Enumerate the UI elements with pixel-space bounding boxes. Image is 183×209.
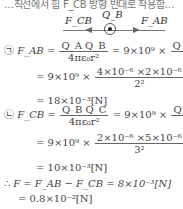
right-force-label: F_AB	[141, 15, 168, 26]
step-b-result: = 10×10⁻³[N]	[36, 162, 107, 173]
step-a-line2: = 9×10⁹ × 4×10⁻⁶ ×2×10⁻⁶2²	[36, 66, 183, 89]
conclusion-line1: ∴ F = F_AB − F_CB = 8×10⁻³[N]	[4, 178, 171, 189]
left-force-label: F_CB	[65, 15, 92, 26]
step-b-frac3: 2×10⁻⁶ ×5×10⁻⁶3²	[95, 132, 183, 155]
step-b-marker: ㉡	[4, 109, 14, 120]
step-a-lhs: F_AB =	[17, 45, 55, 56]
step-b-frac2: Q_B Q_Cr²	[171, 104, 183, 127]
arrow-right-icon	[133, 27, 140, 33]
step-a-frac2: Q_A Q_Br²	[171, 40, 183, 63]
charge-icon	[104, 23, 116, 35]
step-a-frac3: 4×10⁻⁶ ×2×10⁻⁶2²	[95, 66, 183, 89]
step-a-line1: ㉠ F_AB = Q_A Q_B4πε₀r² = 9×10⁹ × Q_A Q_B…	[4, 40, 183, 63]
conclusion-line2: = 0.8×10⁻²[N]	[18, 193, 92, 204]
step-b-line1: ㉡ F_CB = Q_B Q_C4πε₀r² = 9×10⁹ × Q_B Q_C…	[4, 104, 183, 127]
step-a-frac1: Q_A Q_B4πε₀r²	[59, 40, 107, 63]
step-a-mid: = 9×10⁹ ×	[112, 45, 167, 56]
step-a-marker: ㉠	[4, 45, 14, 56]
step-b-mid: = 9×10⁹ ×	[113, 109, 168, 120]
step-b-line2: = 9×10⁹ × 2×10⁻⁶ ×5×10⁻⁶3²	[36, 132, 183, 155]
arrow-left-icon	[85, 27, 92, 33]
force-diagram: Q_B F_CB F_AB	[55, 10, 170, 36]
step-b-lhs: F_CB =	[17, 109, 56, 120]
step-b-frac1: Q_B Q_C4πε₀r²	[60, 104, 109, 127]
charge-label: Q_B	[102, 9, 123, 20]
